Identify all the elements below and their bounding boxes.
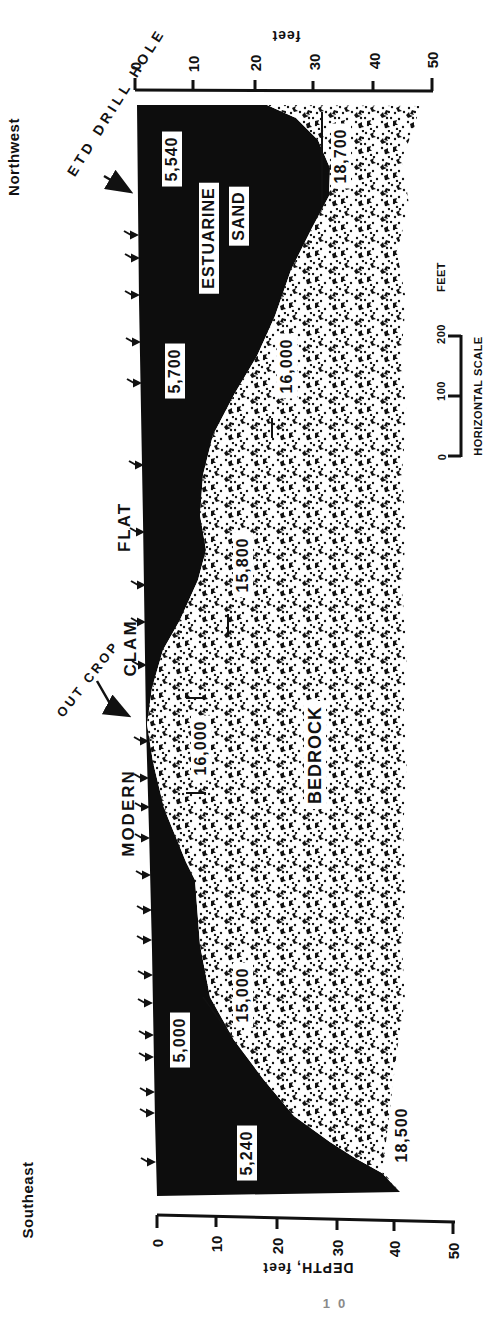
bottom-axis-tick-30: 30 xyxy=(330,1240,345,1257)
modern-label: MODERN xyxy=(120,769,137,857)
bottom-axis-tick-50: 50 xyxy=(446,1243,461,1260)
bottom-axis-tick-0: 0 xyxy=(150,1239,165,1247)
date-15000: 15,000 xyxy=(234,964,252,1027)
date-5240: 5,240 xyxy=(238,1126,256,1179)
top-axis-tick-20: 20 xyxy=(248,55,263,72)
estuarine-sand-label-line2: SAND xyxy=(230,187,248,244)
bottom-axis-title: DEPTH, feet xyxy=(262,1261,353,1275)
date-18500: 18,500 xyxy=(394,1108,410,1163)
date-18700: 18,700 xyxy=(332,125,350,188)
top-axis-tick-10: 10 xyxy=(186,56,201,73)
top-axis-tick-0: 0 xyxy=(128,62,143,70)
northwest-end-label: Northwest xyxy=(6,118,21,196)
southeast-end-label: Southeast xyxy=(20,1161,35,1238)
bottom-axis-tick-40: 40 xyxy=(387,1241,402,1258)
date-5000: 5,000 xyxy=(171,1013,189,1066)
etd-drillhole-arrow xyxy=(104,176,129,191)
bottom-axis xyxy=(157,1215,455,1234)
bottom-axis-tick-20: 20 xyxy=(270,1238,285,1255)
page-number: 10 xyxy=(323,1296,353,1311)
estuarine-sand-label-line1: ESTUARINE xyxy=(200,183,218,292)
clam-flat-label-clam: CLAM xyxy=(122,619,139,676)
bottom-axis-tick-10: 10 xyxy=(209,1236,224,1253)
top-axis-tick-40: 40 xyxy=(367,53,382,70)
top-axis-tick-30: 30 xyxy=(307,54,322,71)
date-15800: 15,800 xyxy=(234,534,252,597)
section-drawing xyxy=(0,0,498,1323)
scale-tick-200: 200 xyxy=(436,324,447,344)
date-5540: 5,540 xyxy=(163,132,181,185)
top-axis-title: feet xyxy=(272,29,301,43)
date-16000-lower: 16,000 xyxy=(192,717,210,780)
horizontal-scale-bar xyxy=(448,335,461,457)
date-5700: 5,700 xyxy=(166,344,184,397)
top-axis xyxy=(135,78,433,91)
bedrock-label: BEDROCK xyxy=(305,702,325,808)
cross-section-figure: Northwest Southeast ETD DRILL HOLE OUT C… xyxy=(0,0,498,1323)
outcrop-arrow xyxy=(97,681,127,715)
scale-tick-0: 0 xyxy=(437,454,448,461)
scale-tick-100: 100 xyxy=(436,381,447,401)
scale-title: HORIZONTAL SCALE xyxy=(473,336,484,455)
top-axis-tick-50: 50 xyxy=(425,52,440,69)
clam-flat-label-flat: FLAT xyxy=(116,502,133,552)
date-16000-upper: 16,000 xyxy=(278,335,296,398)
scale-unit: FEET xyxy=(436,262,447,292)
